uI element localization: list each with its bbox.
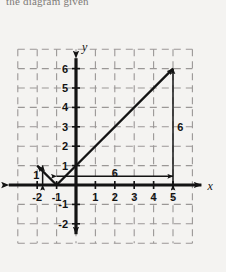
grid-lines bbox=[18, 49, 193, 243]
x-tick-label: 5 bbox=[170, 191, 176, 203]
y-tick-label: -2 bbox=[58, 218, 68, 230]
y-tick-label: 3 bbox=[62, 121, 68, 133]
y-axis-label: y bbox=[81, 40, 88, 54]
y-tick-label: 4 bbox=[62, 101, 69, 113]
coordinate-plane: 661 -2-112345654321-1-2xy bbox=[0, 0, 226, 272]
y-tick-label: -1 bbox=[58, 198, 68, 210]
run-label: 6 bbox=[112, 167, 118, 179]
x-tick-label: -2 bbox=[32, 191, 42, 203]
y-tick-label: 5 bbox=[62, 82, 68, 94]
graph-figure: the diagram given 661 -2-112345654321-1-… bbox=[0, 0, 226, 272]
x-tick-label: 4 bbox=[151, 191, 158, 203]
clipped-header-text: the diagram given bbox=[6, 0, 89, 7]
x-tick-label: 1 bbox=[92, 191, 98, 203]
x-axis-label: x bbox=[206, 179, 213, 193]
y-tick-label: 2 bbox=[62, 140, 68, 152]
left-rise-label: 1 bbox=[33, 169, 39, 181]
y-tick-label: 6 bbox=[62, 63, 68, 75]
x-tick-label: 2 bbox=[112, 191, 118, 203]
rise-label: 6 bbox=[177, 121, 183, 133]
x-tick-label: 3 bbox=[131, 191, 137, 203]
y-tick-label: 1 bbox=[62, 160, 68, 172]
